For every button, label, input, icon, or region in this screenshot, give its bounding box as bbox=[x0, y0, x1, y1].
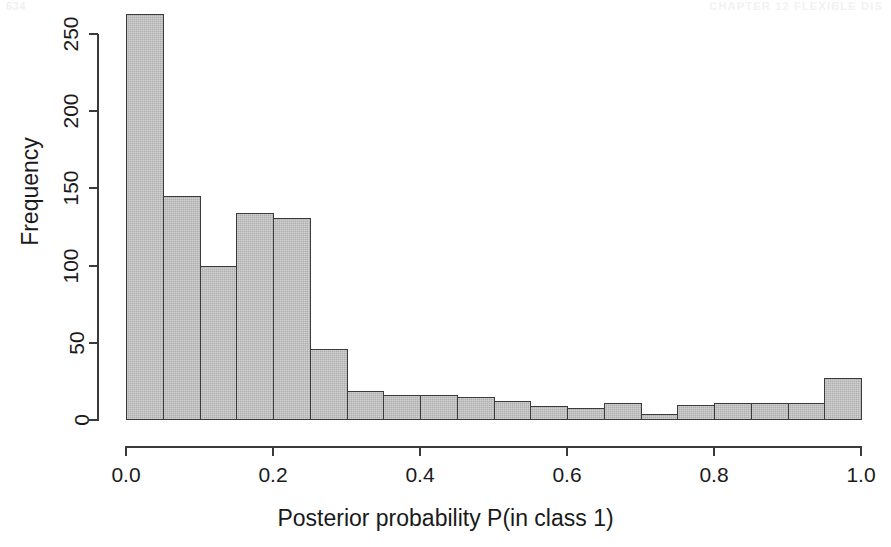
histogram-figure: 634 CHAPTER 12 FLEXIBLE DIS 050100150200… bbox=[0, 0, 891, 547]
y-axis-tick bbox=[89, 33, 98, 35]
y-axis-tick-label: 100 bbox=[36, 240, 88, 292]
y-axis-tick-label: 200 bbox=[36, 85, 88, 137]
x-axis-tick-label: 0.6 bbox=[527, 463, 607, 487]
histogram-bar bbox=[126, 14, 164, 420]
x-axis-tick-label: 0.2 bbox=[233, 463, 313, 487]
histogram-bar bbox=[273, 218, 311, 420]
y-axis-tick-label: 150 bbox=[36, 162, 88, 214]
x-axis-tick-label: 0.8 bbox=[674, 463, 754, 487]
histogram-bar bbox=[824, 378, 862, 420]
histogram-bar bbox=[236, 213, 274, 420]
histogram-bar bbox=[310, 349, 348, 420]
x-axis-tick-label: 1.0 bbox=[821, 463, 891, 487]
x-axis-tick bbox=[860, 446, 862, 456]
y-axis-tick-label: 50 bbox=[36, 317, 88, 369]
y-axis-line bbox=[97, 34, 99, 421]
histogram-bar bbox=[347, 391, 385, 420]
histogram-bar bbox=[420, 395, 458, 420]
histogram-bar bbox=[677, 405, 715, 420]
x-axis-tick bbox=[713, 446, 715, 456]
x-axis-tick bbox=[272, 446, 274, 456]
y-axis-tick bbox=[89, 342, 98, 344]
histogram-bar bbox=[383, 395, 421, 420]
y-axis-tick-label: 250 bbox=[36, 8, 88, 60]
histogram-bar bbox=[530, 406, 568, 420]
x-axis-tick-label: 0.0 bbox=[86, 463, 166, 487]
x-axis-tick bbox=[125, 446, 127, 456]
x-axis-tick bbox=[419, 446, 421, 456]
histogram-bar bbox=[163, 196, 201, 420]
x-axis-tick-label: 0.4 bbox=[380, 463, 460, 487]
histogram-bar bbox=[788, 403, 826, 420]
y-axis-tick bbox=[89, 110, 98, 112]
histogram-bar bbox=[494, 401, 532, 420]
histogram-bar bbox=[457, 397, 495, 420]
histogram-bar bbox=[200, 266, 238, 420]
histogram-bar bbox=[604, 403, 642, 420]
histogram-bar bbox=[567, 408, 605, 420]
histogram-bar bbox=[641, 414, 679, 420]
y-axis-tick-label: 0 bbox=[36, 394, 88, 446]
x-axis-tick bbox=[566, 446, 568, 456]
y-axis-tick bbox=[89, 265, 98, 267]
histogram-bar bbox=[714, 403, 752, 420]
histogram-bar bbox=[751, 403, 789, 420]
y-axis-title: Frequency bbox=[17, 92, 44, 292]
x-axis-title: Posterior probability P(in class 1) bbox=[0, 505, 891, 532]
plot-area: 050100150200250 Frequency 0.00.20.40.60.… bbox=[0, 0, 891, 547]
histogram-bars bbox=[126, 20, 861, 420]
y-axis-tick bbox=[89, 187, 98, 189]
x-axis-line bbox=[126, 446, 861, 448]
